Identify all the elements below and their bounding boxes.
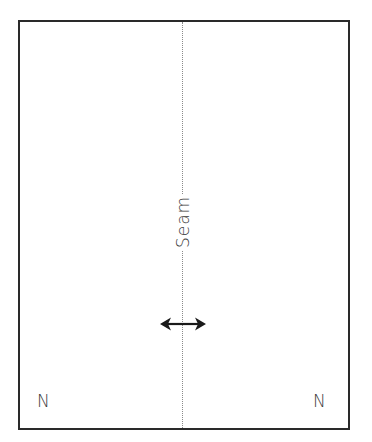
- notch-label-left: N: [37, 391, 50, 411]
- notch-label-right: N: [313, 391, 326, 411]
- seam-label: Seam: [173, 194, 193, 250]
- double-arrow-icon: [159, 316, 207, 332]
